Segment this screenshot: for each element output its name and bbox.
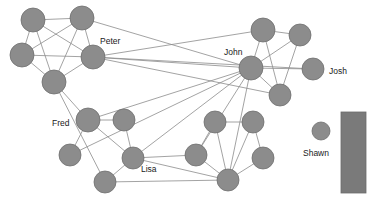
graph-node[interactable] [70, 6, 94, 30]
graph-node-john[interactable] [239, 56, 263, 80]
graph-edge [93, 57, 313, 69]
nodes-layer [10, 6, 330, 193]
legend-color-bar [341, 112, 366, 193]
graph-edge [88, 68, 251, 120]
graph-node[interactable] [21, 8, 45, 32]
graph-node[interactable] [113, 109, 135, 131]
graph-node[interactable] [251, 18, 275, 42]
node-label-peter: Peter [100, 36, 120, 46]
graph-node-shawn[interactable] [312, 122, 330, 140]
graph-node[interactable] [217, 169, 239, 191]
node-label-josh: Josh [329, 66, 347, 76]
graph-edge [105, 180, 228, 182]
graph-canvas: PeterJohnJoshFredLisaShawn [0, 0, 371, 208]
graph-node[interactable] [185, 144, 207, 166]
graph-node[interactable] [94, 171, 116, 193]
graph-node-peter[interactable] [81, 45, 105, 69]
graph-node[interactable] [269, 84, 291, 106]
graph-node[interactable] [242, 111, 264, 133]
graph-node[interactable] [289, 24, 311, 46]
graph-node[interactable] [42, 70, 66, 94]
network-graph-figure: PeterJohnJoshFredLisaShawn [0, 0, 371, 208]
graph-node-josh[interactable] [302, 58, 324, 80]
graph-node[interactable] [10, 43, 34, 67]
graph-node[interactable] [204, 111, 226, 133]
graph-node[interactable] [59, 144, 81, 166]
node-label-shawn: Shawn [303, 148, 329, 158]
graph-node-fred[interactable] [76, 108, 100, 132]
node-label-fred: Fred [52, 118, 70, 128]
graph-edge [54, 82, 105, 182]
legend-layer [341, 112, 366, 193]
node-label-lisa: Lisa [141, 164, 157, 174]
node-label-john: John [224, 47, 243, 57]
graph-node[interactable] [252, 147, 274, 169]
